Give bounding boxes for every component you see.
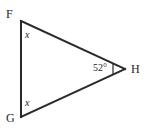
vertex-label-f: F (6, 8, 13, 20)
angle-label-h: 52° (93, 63, 107, 73)
angle-label-f: x (25, 30, 29, 40)
geometry-figure: F G H x x 52° (0, 0, 147, 132)
angle-label-g: x (25, 98, 29, 108)
vertex-label-g: G (6, 112, 15, 124)
figure-background (0, 0, 147, 132)
vertex-label-h: H (131, 63, 140, 75)
triangle-drawing (0, 0, 147, 132)
